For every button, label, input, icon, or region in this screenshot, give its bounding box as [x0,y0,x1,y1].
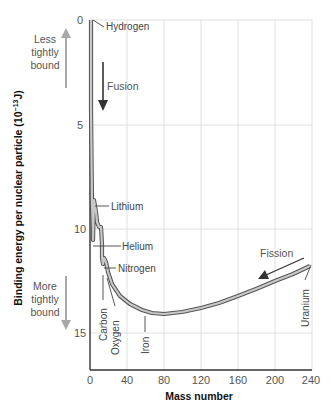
element-leaders [93,20,311,332]
gridlines [90,20,312,370]
y-tick-15: 15 [74,327,86,339]
y-tick-5: 5 [77,119,83,131]
lithium-label: Lithium [111,201,143,212]
iron-label: Iron [140,337,151,354]
x-tick-240: 240 [302,374,320,386]
y-tick-10: 10 [74,223,86,235]
binding-energy-chart: 0 5 10 15 0 40 80 120 160 200 240 Mass n… [0,0,331,408]
x-tick-80: 80 [158,374,170,386]
more-label-2: tightly [31,293,59,305]
more-label-3: bound [30,306,59,318]
more-tightly-bound-arrow-icon [61,276,71,330]
uranium-label: Uranium [300,289,311,327]
x-tick-120: 120 [192,374,210,386]
less-tightly-bound-arrow-icon [61,28,71,88]
x-axis-title: Mass number [165,390,233,402]
x-tick-160: 160 [229,374,247,386]
fusion-label: Fusion [107,80,139,92]
less-label-2: tightly [31,46,59,58]
less-label-3: bound [30,59,59,71]
x-tick-0: 0 [87,374,93,386]
y-axis-title: Binding energy per nuclear particle (10−… [12,90,24,306]
hydrogen-label: Hydrogen [106,21,149,32]
fission-arrow-icon [258,258,304,279]
more-label-1: More [33,280,57,292]
x-tick-labels: 0 40 80 120 160 200 240 [87,374,320,386]
less-label-1: Less [34,33,56,45]
nitrogen-label: Nitrogen [118,263,156,274]
fission-label: Fission [260,247,293,259]
carbon-label: Carbon [98,308,109,341]
y-tick-0: 0 [77,14,83,26]
x-tick-200: 200 [266,374,284,386]
oxygen-label: Oxygen [110,321,121,355]
x-tick-40: 40 [121,374,133,386]
y-tick-labels: 0 5 10 15 [74,14,86,339]
helium-label: Helium [122,241,153,252]
